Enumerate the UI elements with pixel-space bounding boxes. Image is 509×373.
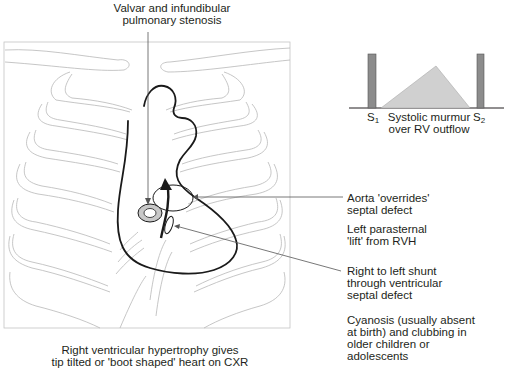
murmur-phonocardiogram (349, 54, 504, 108)
pulmonary-stenosis-label: Valvar and infundibular pulmonary stenos… (112, 2, 232, 26)
label-line: Right ventricular hypertrophy gives (30, 344, 270, 356)
rib-cage-icon (5, 48, 290, 328)
chest-xray-frame (4, 42, 290, 328)
aorta-overrides-label: Aorta 'overrides' septal defect (347, 192, 429, 216)
boot-shaped-heart-icon (118, 86, 237, 274)
systolic-murmur-shape (381, 66, 470, 108)
pulmonary-valve-icon (138, 204, 162, 222)
label-line: through ventricular (347, 277, 442, 289)
label-line: older children or (347, 338, 475, 350)
rvh-caption: Right ventricular hypertrophy gives tip … (30, 344, 270, 368)
s1-subscript: 1 (375, 116, 379, 125)
label-line: adolescents (347, 350, 475, 362)
label-line: Valvar and infundibular (112, 2, 232, 14)
s1-bar (368, 54, 376, 108)
label-line: tip tilted or 'boot shaped' heart on CXR (30, 356, 270, 368)
label-line: Left parasternal (347, 223, 427, 235)
s2-subscript: 2 (481, 116, 485, 125)
label-line: septal defect (347, 289, 442, 301)
s1-label: S1 (367, 111, 379, 127)
label-line: Cyanosis (usually absent (347, 314, 475, 326)
parasternal-lift-label: Left parasternal 'lift' from RVH (347, 223, 427, 247)
s2-text: S (473, 111, 481, 123)
label-line: septal defect (347, 204, 429, 216)
label-line: Systolic murmur (386, 111, 472, 123)
s1-text: S (367, 111, 375, 123)
label-line: pulmonary stenosis (112, 14, 232, 26)
leader-lines (145, 32, 343, 271)
label-line: Aorta 'overrides' (347, 192, 429, 204)
label-line: 'lift' from RVH (347, 235, 427, 247)
s2-label: S2 (473, 111, 485, 127)
blood-flow-arrow-icon (160, 178, 172, 238)
cyanosis-label: Cyanosis (usually absent at birth) and c… (347, 314, 475, 362)
shunt-label: Right to left shunt through ventricular … (347, 265, 442, 301)
s2-bar (477, 54, 484, 108)
label-line: at birth) and clubbing in (347, 326, 475, 338)
label-line: Right to left shunt (347, 265, 442, 277)
label-line: over RV outflow (386, 123, 472, 135)
murmur-caption: Systolic murmur over RV outflow (386, 111, 472, 135)
